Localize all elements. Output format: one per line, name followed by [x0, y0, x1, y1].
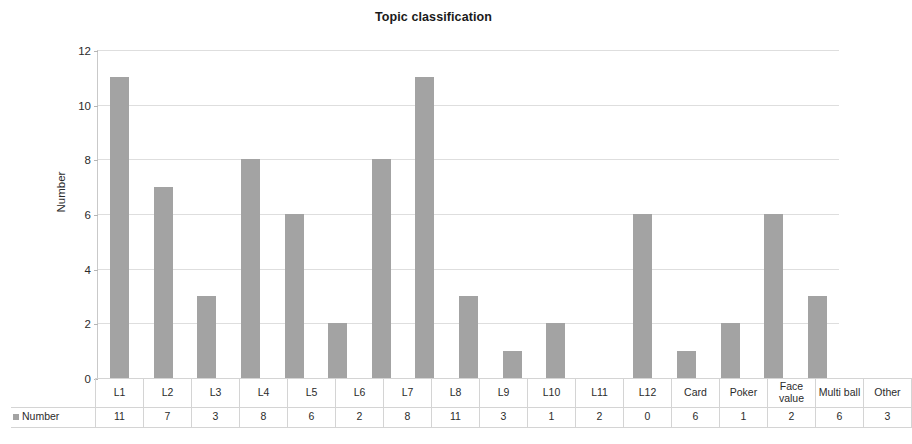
table-row: Number1173862811312061263: [11, 407, 912, 427]
table-value-cell: 8: [384, 407, 432, 427]
bar-slot-L6: [316, 50, 360, 378]
bar-slot-L1: [98, 50, 142, 378]
bar-slot-Other: [796, 50, 840, 378]
table-header-cell: L10: [528, 379, 576, 408]
bar-slot-L10: [490, 50, 534, 378]
bar-slot-L5: [272, 50, 316, 378]
table-header-cell: L4: [240, 379, 288, 408]
table-value-cell: 3: [192, 407, 240, 427]
y-tick-label-4: 4: [85, 264, 91, 276]
table-value-cell: 3: [480, 407, 528, 427]
y-tick-label-12: 12: [78, 45, 91, 57]
series-legend-label: Number: [22, 410, 59, 422]
table-header-cell: Card: [672, 379, 720, 408]
table-header-cell: L7: [384, 379, 432, 408]
bar-Other[interactable]: [808, 296, 827, 378]
bar-L4[interactable]: [241, 159, 260, 378]
table-header-cell: L6: [336, 379, 384, 408]
bar-L8[interactable]: [415, 77, 434, 378]
bar-L10[interactable]: [503, 351, 522, 378]
table-value-cell: 6: [672, 407, 720, 427]
table-value-cell: 2: [576, 407, 624, 427]
table-value-cell: 1: [720, 407, 768, 427]
bar-Face value[interactable]: [721, 323, 740, 378]
plot-area: 024681012: [97, 50, 838, 378]
bar-slot-L7: [360, 50, 404, 378]
bar-L2[interactable]: [154, 187, 173, 378]
y-tick-label-8: 8: [85, 154, 91, 166]
table-value-cell: 2: [336, 407, 384, 427]
y-tick-label-6: 6: [85, 209, 91, 221]
bar-L1[interactable]: [110, 77, 129, 378]
table-corner-cell: [11, 379, 96, 408]
bar-slot-Poker: [665, 50, 709, 378]
table-value-cell: 3: [864, 407, 912, 427]
table-header-row: L1L2L3L4L5L6L7L8L9L10L11L12CardPokerFace…: [11, 379, 912, 408]
bar-slot-Multi ball: [752, 50, 796, 378]
data-table: L1L2L3L4L5L6L7L8L9L10L11L12CardPokerFace…: [11, 378, 912, 428]
bar-series: [98, 50, 839, 378]
bar-L7[interactable]: [372, 159, 391, 378]
table-header-cell: Poker: [720, 379, 768, 408]
y-axis-label: Number: [55, 157, 67, 227]
table-value-cell: 1: [528, 407, 576, 427]
chart-title: Topic classification: [0, 10, 867, 24]
bar-L6[interactable]: [328, 323, 347, 378]
table-header-cell: Multi ball: [816, 379, 864, 408]
table-header-cell: L1: [96, 379, 144, 408]
bar-L11[interactable]: [546, 323, 565, 378]
table-header-cell: Other: [864, 379, 912, 408]
table-header-cell: Face value: [768, 379, 816, 408]
bar-Poker[interactable]: [677, 351, 696, 378]
table-header-cell: L2: [144, 379, 192, 408]
bar-slot-L3: [185, 50, 229, 378]
bar-slot-L4: [229, 50, 273, 378]
table-value-cell: 8: [240, 407, 288, 427]
table-header-cell: L11: [576, 379, 624, 408]
table-value-cell: 2: [768, 407, 816, 427]
bar-slot-L11: [534, 50, 578, 378]
bar-slot-L8: [403, 50, 447, 378]
table-header-cell: L8: [432, 379, 480, 408]
table-header-cell: L3: [192, 379, 240, 408]
bar-slot-L12: [578, 50, 622, 378]
bar-L5[interactable]: [285, 214, 304, 378]
bar-L3[interactable]: [197, 296, 216, 378]
table-header-cell: L9: [480, 379, 528, 408]
table-value-cell: 6: [288, 407, 336, 427]
table-value-cell: 11: [96, 407, 144, 427]
table-value-cell: 11: [432, 407, 480, 427]
table-header-cell: L12: [624, 379, 672, 408]
bar-slot-Face value: [708, 50, 752, 378]
bar-slot-L2: [142, 50, 186, 378]
bar-slot-L9: [447, 50, 491, 378]
y-tick-label-10: 10: [78, 100, 91, 112]
legend-swatch-icon: [13, 414, 19, 420]
bar-Multi ball[interactable]: [764, 214, 783, 378]
table-value-cell: 7: [144, 407, 192, 427]
bar-L9[interactable]: [459, 296, 478, 378]
table-header-cell: L5: [288, 379, 336, 408]
y-tick-label-2: 2: [85, 318, 91, 330]
series-legend-cell: Number: [11, 407, 96, 427]
bar-slot-Card: [621, 50, 665, 378]
table-value-cell: 6: [816, 407, 864, 427]
table-value-cell: 0: [624, 407, 672, 427]
bar-Card[interactable]: [633, 214, 652, 378]
